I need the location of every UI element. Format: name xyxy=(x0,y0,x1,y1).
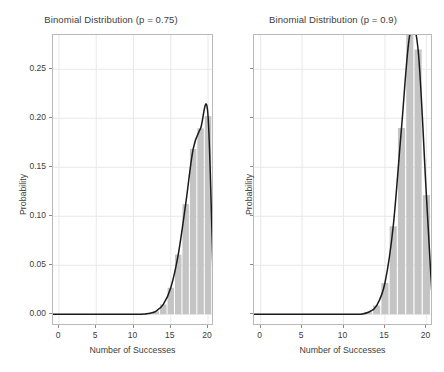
y-axis-title-right: Probability xyxy=(244,174,254,215)
x-tick-mark xyxy=(133,325,134,328)
x-tick-mark xyxy=(425,325,426,328)
x-tick-label: 15 xyxy=(379,330,388,340)
x-tick-label: 0 xyxy=(56,330,61,340)
y-tick-label: 0.20 xyxy=(0,112,46,122)
y-tick-mark xyxy=(250,313,253,314)
x-tick-mark xyxy=(58,325,59,328)
x-tick-mark xyxy=(95,325,96,328)
x-tick-mark xyxy=(301,325,302,328)
y-axis-title-left: Probability xyxy=(18,174,28,215)
plot-area-left xyxy=(52,34,213,325)
y-tick-mark xyxy=(49,68,52,69)
x-tick-label: 20 xyxy=(421,330,430,340)
x-tick-label: 10 xyxy=(338,330,347,340)
x-tick-mark xyxy=(170,325,171,328)
x-tick-label: 15 xyxy=(165,330,174,340)
chart-title-left: Binomial Distribution (p = 0.75) xyxy=(0,14,222,25)
y-tick-label: 0.00 xyxy=(0,308,46,318)
y-tick-label: 0.15 xyxy=(0,161,46,171)
x-tick-label: 10 xyxy=(128,330,137,340)
x-tick-label: 5 xyxy=(299,330,304,340)
x-tick-mark xyxy=(384,325,385,328)
y-tick-mark xyxy=(250,166,253,167)
x-tick-mark xyxy=(207,325,208,328)
y-tick-label: 0.05 xyxy=(0,259,46,269)
x-tick-label: 20 xyxy=(202,330,211,340)
y-tick-mark xyxy=(49,215,52,216)
plot-canvas-left xyxy=(53,35,213,325)
y-tick-mark xyxy=(49,313,52,314)
x-tick-label: 5 xyxy=(93,330,98,340)
y-tick-mark xyxy=(250,264,253,265)
binomial-distribution-figure: Binomial Distribution (p = 0.75) 0.000.0… xyxy=(0,0,444,372)
x-axis-title-left: Number of Successes xyxy=(52,345,213,355)
chart-panel-right: Binomial Distribution (p = 0.9) 05101520… xyxy=(222,0,444,372)
x-tick-mark xyxy=(343,325,344,328)
y-tick-mark xyxy=(250,117,253,118)
plot-area-right xyxy=(253,34,432,325)
x-axis-title-right: Number of Successes xyxy=(253,345,432,355)
x-tick-label: 0 xyxy=(257,330,262,340)
y-tick-mark xyxy=(49,264,52,265)
y-tick-mark xyxy=(49,166,52,167)
plot-canvas-right xyxy=(254,35,432,325)
chart-panel-left: Binomial Distribution (p = 0.75) 0.000.0… xyxy=(0,0,222,372)
chart-title-right: Binomial Distribution (p = 0.9) xyxy=(222,14,444,25)
y-tick-mark xyxy=(250,215,253,216)
x-tick-mark xyxy=(260,325,261,328)
y-tick-mark xyxy=(250,68,253,69)
y-tick-label: 0.25 xyxy=(0,63,46,73)
y-tick-mark xyxy=(49,117,52,118)
